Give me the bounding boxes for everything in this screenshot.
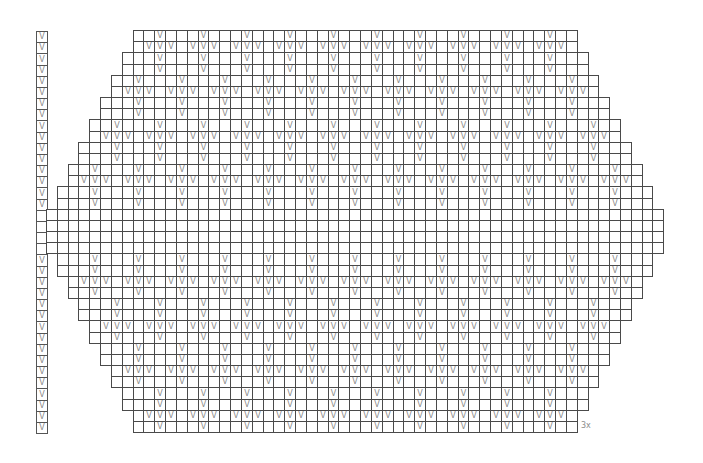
slip-stitch-v-icon: V xyxy=(90,288,100,298)
slip-stitch-v-icon: V xyxy=(199,132,208,142)
slip-stitch-v-icon: V xyxy=(37,367,47,377)
slip-stitch-v-icon: V xyxy=(545,333,555,343)
slip-stitch-v-icon: V xyxy=(491,87,501,97)
slip-stitch-v-icon: V xyxy=(448,366,458,376)
slip-stitch-v-icon: V xyxy=(231,366,241,376)
slip-stitch-v-icon: V xyxy=(459,120,468,131)
slip-stitch-v-icon: V xyxy=(480,355,490,365)
slip-stitch-v-icon: V xyxy=(545,400,555,410)
slip-stitch-v-icon: V xyxy=(556,277,566,287)
slip-stitch-v-icon: V xyxy=(37,334,47,344)
slip-stitch-v-icon: V xyxy=(318,87,328,97)
slip-stitch-v-icon: V xyxy=(415,31,425,41)
slip-stitch-v-icon: V xyxy=(610,176,620,186)
slip-stitch-v-icon: V xyxy=(112,143,122,153)
slip-stitch-v-icon: V xyxy=(545,154,555,164)
slip-stitch-v-icon: V xyxy=(134,199,143,209)
slip-stitch-v-icon: V xyxy=(134,266,143,276)
slip-stitch-v-icon: V xyxy=(264,288,273,298)
slip-stitch-v-icon: V xyxy=(79,176,89,186)
slip-stitch-v-icon: V xyxy=(372,422,382,432)
slip-stitch-v-icon: V xyxy=(415,400,425,410)
slip-stitch-v-icon: V xyxy=(242,132,252,142)
side-column-cell: V xyxy=(36,422,48,434)
slip-stitch-v-icon: V xyxy=(524,109,533,119)
slip-stitch-v-icon: V xyxy=(610,199,620,209)
slip-stitch-v-icon: V xyxy=(437,87,447,97)
slip-stitch-v-icon: V xyxy=(469,132,479,142)
slip-stitch-v-icon: V xyxy=(274,277,284,287)
slip-stitch-v-icon: V xyxy=(329,120,338,131)
slip-stitch-v-icon: V xyxy=(112,310,122,320)
slip-stitch-v-icon: V xyxy=(274,321,284,332)
slip-stitch-v-icon: V xyxy=(285,120,295,131)
slip-stitch-v-icon: V xyxy=(339,42,349,52)
slip-stitch-v-icon: V xyxy=(199,333,208,343)
slip-stitch-v-icon: V xyxy=(134,187,143,198)
slip-stitch-v-icon: V xyxy=(394,355,403,365)
slip-stitch-v-icon: V xyxy=(491,277,501,287)
slip-stitch-v-icon: V xyxy=(339,87,349,97)
slip-stitch-v-icon: V xyxy=(37,345,47,355)
slip-stitch-v-icon: V xyxy=(610,187,620,198)
slip-stitch-v-icon: V xyxy=(242,53,252,64)
slip-stitch-v-icon: V xyxy=(231,176,241,186)
slip-stitch-v-icon: V xyxy=(242,411,252,421)
slip-stitch-v-icon: V xyxy=(123,87,133,97)
slip-stitch-v-icon: V xyxy=(567,109,577,119)
slip-stitch-v-icon: V xyxy=(394,377,403,387)
slip-stitch-v-icon: V xyxy=(177,76,187,86)
slip-stitch-v-icon: V xyxy=(188,42,198,52)
slip-stitch-v-icon: V xyxy=(480,76,490,86)
slip-stitch-v-icon: V xyxy=(480,277,490,287)
slip-stitch-v-icon: V xyxy=(123,366,133,376)
slip-stitch-v-icon: V xyxy=(37,110,47,120)
slip-stitch-v-icon: V xyxy=(578,87,588,97)
slip-stitch-v-icon: V xyxy=(134,87,143,97)
slip-stitch-v-icon: V xyxy=(242,120,252,131)
slip-stitch-v-icon: V xyxy=(459,422,468,432)
slip-stitch-v-icon: V xyxy=(274,176,284,186)
slip-stitch-v-icon: V xyxy=(567,377,577,387)
slip-stitch-v-icon: V xyxy=(199,400,208,410)
slip-stitch-v-icon: V xyxy=(545,65,555,75)
slip-stitch-v-icon: V xyxy=(589,321,598,332)
slip-stitch-v-icon: V xyxy=(318,321,328,332)
slip-stitch-v-icon: V xyxy=(166,87,176,97)
slip-stitch-v-icon: V xyxy=(621,176,631,186)
slip-stitch-v-icon: V xyxy=(426,321,436,332)
slip-stitch-v-icon: V xyxy=(134,165,143,175)
slip-stitch-v-icon: V xyxy=(545,42,555,52)
slip-stitch-v-icon: V xyxy=(350,98,360,108)
slip-stitch-v-icon: V xyxy=(37,300,47,310)
slip-stitch-v-icon: V xyxy=(144,411,154,421)
slip-stitch-v-icon: V xyxy=(307,344,317,354)
slip-stitch-v-icon: V xyxy=(513,176,523,186)
slip-stitch-v-icon: V xyxy=(578,366,588,376)
slip-stitch-v-icon: V xyxy=(524,277,533,287)
slip-stitch-v-icon: V xyxy=(491,411,501,421)
slip-stitch-v-icon: V xyxy=(199,388,208,399)
slip-stitch-v-icon: V xyxy=(524,76,533,86)
slip-stitch-v-icon: V xyxy=(242,422,252,432)
slip-stitch-v-icon: V xyxy=(155,310,165,320)
stitch-chart: VVVVVVVVVVVVVVVVVVVVVVVVVVVVVVVV VVVVVVV… xyxy=(0,0,703,463)
slip-stitch-v-icon: V xyxy=(177,355,187,365)
slip-stitch-v-icon: V xyxy=(350,109,360,119)
slip-stitch-v-icon: V xyxy=(372,120,382,131)
slip-stitch-v-icon: V xyxy=(90,199,100,209)
slip-stitch-v-icon: V xyxy=(329,132,338,142)
slip-stitch-v-icon: V xyxy=(307,266,317,276)
slip-stitch-v-icon: V xyxy=(329,53,338,64)
slip-stitch-v-icon: V xyxy=(513,321,523,332)
slip-stitch-v-icon: V xyxy=(502,400,512,410)
slip-stitch-v-icon: V xyxy=(545,411,555,421)
slip-stitch-v-icon: V xyxy=(274,42,284,52)
slip-stitch-v-icon: V xyxy=(209,132,219,142)
slip-stitch-v-icon: V xyxy=(144,87,154,97)
slip-stitch-v-icon: V xyxy=(177,199,187,209)
slip-stitch-v-icon: V xyxy=(37,177,47,187)
slip-stitch-v-icon: V xyxy=(329,154,338,164)
slip-stitch-v-icon: V xyxy=(101,277,111,287)
slip-stitch-v-icon: V xyxy=(37,289,47,299)
